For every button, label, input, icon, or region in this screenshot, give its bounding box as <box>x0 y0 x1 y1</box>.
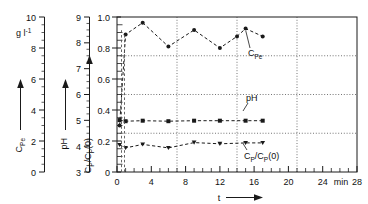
series-ph <box>118 118 265 123</box>
x-ticklabel-28: 28 <box>352 177 362 187</box>
datapoint <box>218 46 222 50</box>
main-y-ticklabel-04: 0.4 <box>97 106 110 116</box>
svg-text:CP/CP(0): CP/CP(0) <box>244 151 279 163</box>
datapoint <box>261 119 265 123</box>
x-axis-unit: min <box>334 177 349 187</box>
main-y-ticklabel-08: 0.8 <box>97 44 110 54</box>
datapoint <box>141 21 145 25</box>
x-axis-arrow <box>226 194 263 200</box>
datapoint <box>244 27 248 31</box>
gridlines-vertical <box>177 17 297 172</box>
main-y-ticklabel-00: 0 <box>105 168 110 178</box>
datapoint <box>141 119 145 123</box>
annotation-ph: pH <box>243 93 258 111</box>
chart-canvas: 10 8 6 4 2 0 g l-1 CPe <box>0 0 368 204</box>
svg-text:CPe: CPe <box>248 48 263 60</box>
series-cp-cp0 <box>117 141 265 151</box>
x-ticklabel-20: 20 <box>283 177 293 187</box>
cpe-ticklabel-0: 0 <box>31 168 36 178</box>
series-cpe <box>118 21 265 128</box>
main-y-axis-label: CP/CP(0) <box>83 138 95 173</box>
cpe-axis-unit: g l-1 <box>16 27 32 39</box>
series-ph-markers <box>118 118 265 123</box>
ph-ticklabel-8: 8 <box>76 38 81 48</box>
series-cpe-markers <box>118 21 265 128</box>
cpe-ticklabel-4: 4 <box>31 106 36 116</box>
cpe-axis-label: CPe <box>14 138 26 153</box>
transition-segments <box>122 30 125 172</box>
annotation-cpe: CPe <box>246 31 263 60</box>
ph-axis-label: pH <box>59 138 69 150</box>
datapoint <box>192 119 196 123</box>
datapoint <box>118 118 122 122</box>
cpe-ticklabel-8: 8 <box>31 44 36 54</box>
main-y-ticklabel-06: 0.6 <box>97 75 110 85</box>
main-y-ticklabel-10: 1.0 <box>97 13 110 23</box>
cpe-ticklabel-2: 2 <box>31 137 36 147</box>
ph-axis-arrow <box>62 79 69 130</box>
cpe-axis-arrow <box>17 79 24 130</box>
datapoint <box>192 28 196 32</box>
x-ticklabel-0: 0 <box>114 177 119 187</box>
x-ticklabel-16: 16 <box>249 177 259 187</box>
x-minor-ticks <box>126 168 349 172</box>
ph-ticklabel-7: 7 <box>76 64 81 74</box>
annotation-cpcp0: CP/CP(0) <box>243 144 279 163</box>
datapoint <box>118 124 122 128</box>
cpe-ticklabel-6: 6 <box>31 75 36 85</box>
series-cpe-line <box>120 23 263 126</box>
datapoint <box>235 34 239 38</box>
ph-axis-group: 9 8 7 6 5 4 3 pH <box>59 13 90 178</box>
datapoint <box>260 141 265 145</box>
main-y-axis-arrow <box>86 55 93 105</box>
ph-ticklabel-3: 3 <box>76 168 81 178</box>
x-axis-label: t <box>218 193 221 203</box>
datapoint <box>166 45 170 49</box>
datapoint <box>261 34 265 38</box>
gridlines-horizontal <box>117 56 357 134</box>
datapoint <box>218 119 222 123</box>
ph-ticklabel-6: 6 <box>76 90 81 100</box>
x-ticklabel-4: 4 <box>149 177 154 187</box>
x-ticklabel-12: 12 <box>215 177 225 187</box>
ph-ticklabel-4: 4 <box>76 142 81 152</box>
series-cp-cp0-markers <box>117 141 265 151</box>
svg-text:pH: pH <box>246 93 258 103</box>
cpe-axis-group: 10 8 6 4 2 0 g l-1 CPe <box>14 13 45 178</box>
ph-ticklabel-9: 9 <box>76 13 81 23</box>
main-y-ticklabel-02: 0.2 <box>97 137 110 147</box>
figure-container: 10 8 6 4 2 0 g l-1 CPe <box>0 0 368 204</box>
x-ticklabel-8: 8 <box>183 177 188 187</box>
datapoint <box>244 119 248 123</box>
datapoint <box>166 119 170 123</box>
ph-ticklabel-5: 5 <box>76 116 81 126</box>
cpe-ticklabel-10: 10 <box>26 13 36 23</box>
x-ticklabel-24: 24 <box>318 177 328 187</box>
main-plot-group: 1.0 0.8 0.6 0.4 0.2 0 CP/CP(0) <box>83 13 362 204</box>
